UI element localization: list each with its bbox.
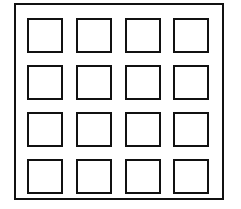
grid-square <box>76 159 112 194</box>
grid-square <box>173 65 209 100</box>
grid-square <box>27 112 63 147</box>
grid-square <box>27 65 63 100</box>
grid-square <box>76 65 112 100</box>
grid-square <box>173 159 209 194</box>
grid-square <box>173 112 209 147</box>
grid-square <box>27 18 63 53</box>
grid-square <box>76 112 112 147</box>
grid-square <box>27 159 63 194</box>
grid-square <box>173 18 209 53</box>
grid-square <box>125 112 161 147</box>
grid-square <box>125 65 161 100</box>
grid-square <box>76 18 112 53</box>
grid-square <box>125 18 161 53</box>
grid-square <box>125 159 161 194</box>
